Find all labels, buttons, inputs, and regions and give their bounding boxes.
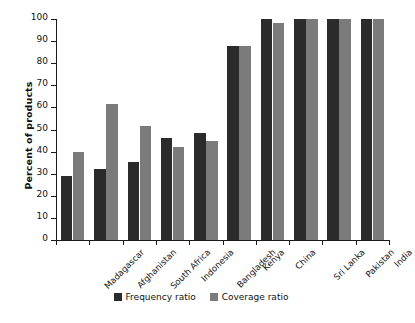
plot-area: 0102030405060708090100	[56, 19, 389, 240]
x-tick	[356, 240, 357, 245]
x-tick	[289, 240, 290, 245]
legend-swatch-icon	[114, 293, 122, 301]
legend-item[interactable]: Frequency ratio	[114, 292, 196, 302]
bar	[361, 19, 373, 240]
bar	[140, 126, 152, 240]
y-tick-100: 100	[51, 19, 56, 20]
category-label: India	[393, 247, 415, 269]
legend-item[interactable]: Coverage ratio	[210, 292, 289, 302]
bar	[94, 169, 106, 240]
y-tick-label: 50	[37, 123, 48, 133]
category-label: China	[294, 247, 318, 271]
y-tick-label: 40	[37, 145, 48, 155]
bar	[128, 162, 140, 240]
bar	[261, 19, 273, 240]
x-tick	[189, 240, 190, 245]
legend-swatch-icon	[210, 293, 218, 301]
y-tick-label: 90	[37, 34, 48, 44]
bar	[306, 19, 318, 240]
y-tick-label: 20	[37, 189, 48, 199]
y-tick-label: 100	[31, 12, 48, 22]
y-tick-30: 30	[51, 174, 56, 175]
bar	[61, 176, 73, 240]
x-tick	[256, 240, 257, 245]
bar	[161, 138, 173, 240]
y-tick-50: 50	[51, 130, 56, 131]
bar	[327, 19, 339, 240]
bar	[339, 19, 351, 240]
x-tick	[223, 240, 224, 245]
y-tick-10: 10	[51, 218, 56, 219]
y-tick-60: 60	[51, 107, 56, 108]
bar	[273, 23, 285, 240]
x-tick	[89, 240, 90, 245]
bar	[373, 19, 385, 240]
category-label: Sri Lanka	[331, 247, 366, 282]
y-axis-line	[56, 19, 57, 241]
x-tick	[322, 240, 323, 245]
y-tick-label: 70	[37, 78, 48, 88]
y-tick-20: 20	[51, 196, 56, 197]
y-tick-40: 40	[51, 152, 56, 153]
bar	[239, 46, 251, 240]
bar	[227, 46, 239, 240]
bar	[194, 133, 206, 240]
x-tick	[123, 240, 124, 245]
x-tick	[389, 240, 390, 245]
legend-label: Frequency ratio	[126, 292, 196, 302]
y-tick-80: 80	[51, 63, 56, 64]
legend-label: Coverage ratio	[222, 292, 289, 302]
x-tick	[156, 240, 157, 245]
y-axis-title: Percent of products	[23, 56, 34, 216]
bar	[73, 152, 85, 240]
chart-legend: Frequency ratioCoverage ratio	[0, 292, 402, 302]
bar	[294, 19, 306, 240]
y-tick-90: 90	[51, 41, 56, 42]
category-label: Pakistan	[364, 247, 397, 280]
y-tick-label: 30	[37, 167, 48, 177]
bar	[173, 147, 185, 240]
y-tick-label: 60	[37, 100, 48, 110]
x-tick	[56, 240, 57, 245]
bar	[106, 104, 118, 240]
y-tick-label: 10	[37, 211, 48, 221]
y-tick-70: 70	[51, 85, 56, 86]
y-tick-label: 80	[37, 56, 48, 66]
bar	[206, 141, 218, 240]
y-tick-label: 0	[42, 233, 48, 243]
